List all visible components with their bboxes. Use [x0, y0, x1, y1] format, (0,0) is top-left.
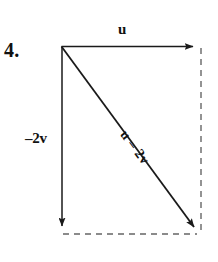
vector-neg-2v-label: –2v [25, 131, 47, 146]
problem-number-label: 4. [4, 40, 20, 60]
vector-diagram-figure: 4. u –2v u – 2v [0, 0, 218, 262]
vector-u-label: u [118, 22, 126, 37]
